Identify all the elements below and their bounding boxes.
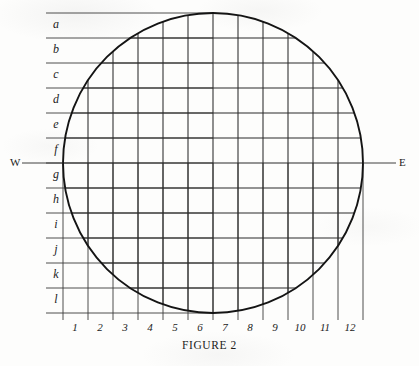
column-label-8: 8 (241, 322, 259, 333)
row-label-h: h (48, 193, 64, 205)
column-label-11: 11 (316, 322, 334, 333)
column-label-4: 4 (141, 322, 159, 333)
column-label-10: 10 (291, 322, 309, 333)
figure-page: a b c d e f g h i j k l 1 2 3 4 5 6 7 8 … (0, 0, 419, 366)
row-label-k: k (48, 268, 64, 280)
inner-grid (63, 13, 363, 313)
column-label-5: 5 (166, 322, 184, 333)
row-label-a: a (48, 18, 64, 30)
column-label-7: 7 (216, 322, 234, 333)
row-label-e: e (48, 118, 64, 130)
figure-caption: FIGURE 2 (0, 339, 419, 351)
column-label-1: 1 (66, 322, 84, 333)
row-label-j: j (48, 243, 64, 255)
column-label-3: 3 (116, 322, 134, 333)
row-label-c: c (48, 68, 64, 80)
west-compass-label: W (10, 157, 20, 168)
east-compass-label: E (399, 157, 406, 168)
column-label-12: 12 (341, 322, 359, 333)
row-label-l: l (48, 293, 64, 305)
column-label-2: 2 (91, 322, 109, 333)
row-label-i: i (48, 218, 64, 230)
column-label-6: 6 (191, 322, 209, 333)
row-label-d: d (48, 93, 64, 105)
column-label-9: 9 (266, 322, 284, 333)
row-label-f: f (48, 143, 64, 155)
row-label-g: g (48, 168, 64, 180)
row-label-b: b (48, 43, 64, 55)
